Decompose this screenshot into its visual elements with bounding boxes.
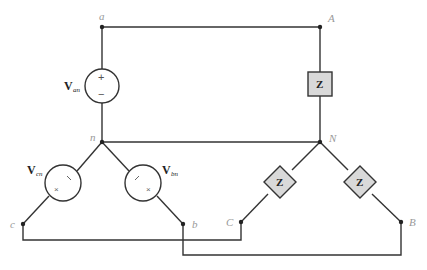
source-vbn: × V bn bbox=[125, 163, 179, 201]
minus-sign: − bbox=[98, 88, 104, 100]
node-c bbox=[21, 222, 25, 226]
wire-N-zc bbox=[292, 142, 320, 170]
wire-n-vbn bbox=[102, 142, 129, 171]
impedance-c: Z bbox=[264, 166, 296, 198]
node-a bbox=[100, 25, 104, 29]
wire-vcn-c bbox=[23, 196, 49, 224]
vbn-subscript: bn bbox=[171, 170, 179, 178]
label-A: A bbox=[327, 12, 335, 24]
impedance-a-label: Z bbox=[316, 78, 323, 90]
label-n: n bbox=[90, 131, 96, 143]
node-b bbox=[181, 222, 185, 226]
impedance-b-label: Z bbox=[356, 176, 363, 188]
label-N: N bbox=[328, 132, 337, 144]
vcn-symbol: V bbox=[27, 163, 36, 177]
wire-N-zb bbox=[320, 142, 348, 170]
label-C: C bbox=[226, 216, 234, 228]
source-van: + − V an bbox=[64, 69, 119, 103]
wires bbox=[23, 27, 401, 255]
nodes bbox=[21, 25, 403, 226]
vbn-symbol: V bbox=[162, 163, 171, 177]
label-b: b bbox=[192, 218, 198, 230]
label-a: a bbox=[99, 10, 105, 22]
wire-zc-C bbox=[241, 194, 268, 222]
wire-vbn-b bbox=[157, 196, 183, 224]
vcn-subscript: cn bbox=[36, 170, 43, 178]
impedance-b: Z bbox=[344, 166, 376, 198]
van-subscript: an bbox=[73, 86, 81, 94]
source-vcn: × V cn bbox=[27, 163, 81, 201]
label-c: c bbox=[10, 218, 15, 230]
three-phase-circuit-diagram: a A n N c b C B + − V an × V cn × V bn Z… bbox=[0, 0, 427, 270]
plus-sign: + bbox=[98, 71, 104, 83]
node-C bbox=[239, 220, 243, 224]
wire-zb-B bbox=[372, 194, 401, 222]
wire-n-vcn bbox=[77, 142, 102, 171]
van-symbol: V bbox=[64, 79, 73, 93]
node-A bbox=[318, 25, 322, 29]
wire-c-C bbox=[23, 222, 241, 240]
voltage-source-circle-icon bbox=[45, 165, 81, 201]
label-B: B bbox=[409, 216, 416, 228]
minus-cross-icon: × bbox=[54, 185, 59, 194]
node-n bbox=[100, 140, 104, 144]
node-B bbox=[399, 220, 403, 224]
wire-b-B bbox=[183, 222, 401, 255]
impedance-a: Z bbox=[308, 72, 332, 96]
node-N bbox=[318, 140, 322, 144]
impedance-c-label: Z bbox=[276, 176, 283, 188]
minus-cross-icon: × bbox=[146, 185, 151, 194]
voltage-source-circle-icon bbox=[125, 165, 161, 201]
